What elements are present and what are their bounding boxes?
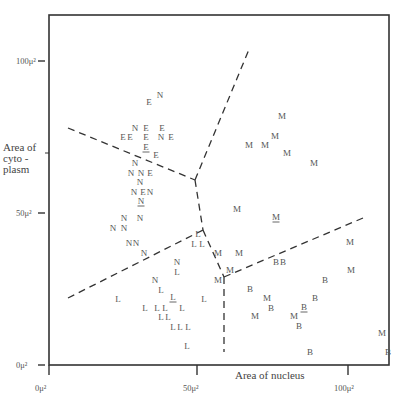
data-point-l: L	[174, 267, 180, 277]
data-point-m: M	[346, 237, 354, 247]
y-axis-label-line3: plasm	[3, 163, 30, 175]
data-point-e: E	[143, 132, 149, 142]
data-point-l: L	[142, 303, 148, 313]
data-point-m: M	[226, 265, 234, 275]
data-point-m: M	[233, 204, 241, 214]
boundary-line	[195, 180, 203, 230]
data-point-b: B	[385, 347, 391, 357]
data-point-l: L	[170, 292, 176, 302]
data-point-m: M	[271, 131, 279, 141]
data-point-n: N	[157, 90, 164, 100]
data-point-b: B	[296, 321, 302, 331]
data-point-b: B	[322, 275, 328, 285]
data-point-l: L	[185, 322, 191, 332]
data-point-l: L	[195, 229, 201, 239]
x-tick-label: 50μ²	[183, 383, 199, 393]
data-point-m: M	[245, 140, 253, 150]
data-point-m: M	[214, 275, 222, 285]
data-point-m: M	[272, 212, 280, 222]
data-point-b: B	[280, 257, 286, 267]
boundary-line	[224, 218, 363, 277]
data-point-n: N	[147, 187, 154, 197]
data-point-l: L	[199, 239, 205, 249]
data-point-l: L	[184, 341, 190, 351]
data-point-b: B	[301, 302, 307, 312]
data-point-n: N	[126, 238, 133, 248]
data-point-n: N	[121, 223, 128, 233]
data-point-b: B	[247, 284, 253, 294]
data-point-n: N	[128, 168, 135, 178]
data-point-m: M	[283, 148, 291, 158]
data-point-n: N	[137, 177, 144, 187]
y-tick-label: 100μ²	[16, 56, 36, 66]
plot-frame	[49, 15, 389, 365]
data-point-m: M	[251, 311, 259, 321]
data-point-l: L	[158, 285, 164, 295]
data-point-m: M	[263, 293, 271, 303]
data-point-m: M	[290, 311, 298, 321]
frame-rect	[49, 15, 389, 365]
x-tick-label: 100μ²	[334, 383, 354, 393]
scatter-chart: 0μ²50μ²100μ²0μ²50μ²100μ² NENEEEEENEEENNN…	[0, 0, 405, 403]
data-point-n: N	[131, 187, 138, 197]
data-point-m: M	[347, 265, 355, 275]
data-point-e: E	[146, 97, 152, 107]
data-point-e: E	[147, 168, 153, 178]
data-point-b: B	[312, 293, 318, 303]
data-point-l: L	[201, 294, 207, 304]
y-tick-label: 50μ²	[16, 208, 32, 218]
data-point-e: E	[143, 142, 149, 152]
data-point-n: N	[174, 257, 181, 267]
data-point-l: L	[177, 322, 183, 332]
data-point-l: L	[115, 294, 121, 304]
data-point-b: B	[273, 257, 279, 267]
y-tick-label: 0μ²	[16, 360, 28, 370]
data-point-l: L	[165, 312, 171, 322]
data-point-b: B	[268, 303, 274, 313]
data-point-m: M	[261, 140, 269, 150]
data-point-l: L	[191, 239, 197, 249]
data-point-l: L	[170, 322, 176, 332]
data-point-l: L	[158, 312, 164, 322]
data-point-e: E	[153, 150, 159, 160]
data-point-m: M	[378, 328, 386, 338]
data-point-e: E	[120, 132, 126, 142]
data-point-n: N	[138, 196, 145, 206]
data-point-e: E	[168, 132, 174, 142]
x-axis-label: Area of nucleus	[235, 369, 305, 381]
data-point-m: M	[278, 111, 286, 121]
data-point-n: N	[137, 213, 144, 223]
data-point-e: E	[127, 132, 133, 142]
data-point-n: N	[132, 158, 139, 168]
x-tick-label: 0μ²	[35, 383, 47, 393]
data-point-m: M	[235, 248, 243, 258]
data-point-m: M	[214, 248, 222, 258]
data-point-n: N	[141, 248, 148, 258]
data-point-n: N	[133, 238, 140, 248]
data-point-b: B	[307, 347, 313, 357]
boundary-line	[195, 47, 250, 180]
decision-boundaries	[68, 47, 363, 352]
data-point-n: N	[110, 223, 117, 233]
data-point-n: N	[132, 123, 139, 133]
data-point-l: L	[179, 303, 185, 313]
data-point-n: N	[158, 132, 165, 142]
data-point-n: N	[121, 213, 128, 223]
data-point-m: M	[310, 158, 318, 168]
data-point-n: N	[152, 275, 159, 285]
